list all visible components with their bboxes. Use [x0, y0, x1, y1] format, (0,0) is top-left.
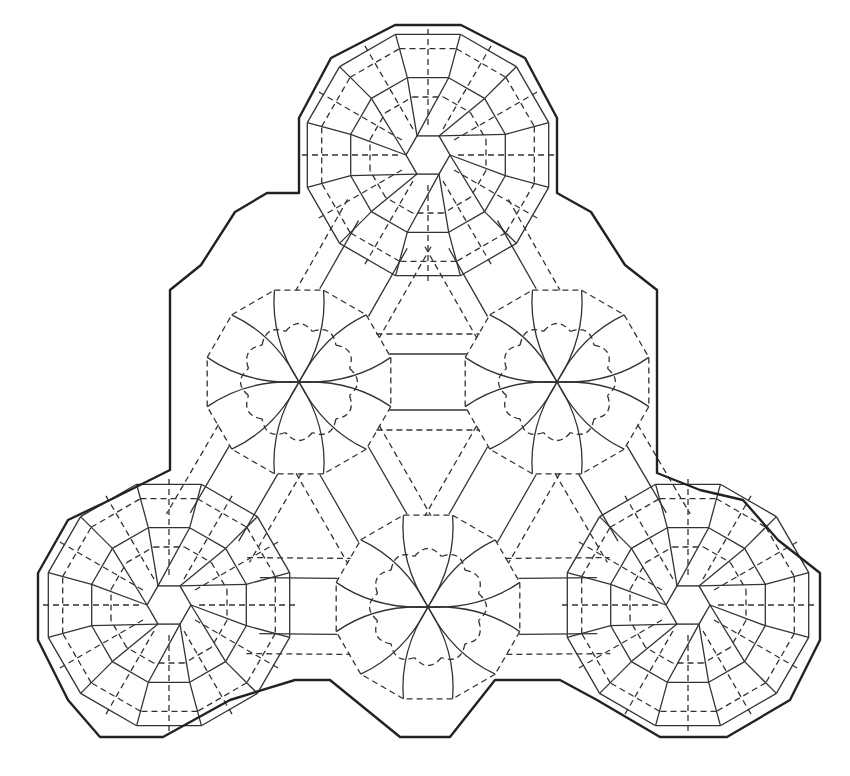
hexagon-edge — [666, 605, 677, 624]
valley-fold — [207, 407, 232, 450]
mountain-fold — [600, 517, 632, 549]
curved-valley-fold — [247, 396, 262, 419]
curved-mountain-fold — [532, 290, 557, 382]
valley-fold — [444, 97, 471, 113]
curved-mountain-fold — [557, 315, 624, 382]
valley-fold — [296, 473, 348, 563]
valley-fold — [610, 683, 659, 712]
valley-fold — [425, 247, 477, 338]
valley-fold — [247, 634, 275, 683]
mountain-fold — [485, 212, 517, 244]
mountain-fold — [371, 78, 407, 99]
mountain-fold — [449, 212, 485, 233]
curved-mountain-fold — [428, 540, 495, 607]
valley-fold — [506, 184, 535, 233]
curved-mountain-fold — [361, 607, 428, 674]
curved-mountain-fold — [465, 382, 557, 407]
curved-mountain-fold — [490, 315, 557, 382]
mountain-fold — [81, 517, 113, 549]
curved-mountain-fold — [403, 607, 428, 699]
valley-fold — [198, 499, 247, 528]
mountain-fold — [190, 528, 226, 549]
curved-mountain-fold — [532, 382, 557, 474]
crease-pattern-canvas — [0, 0, 850, 776]
valley-fold — [506, 654, 610, 655]
hexagon-edge — [439, 155, 450, 174]
mountain-fold — [320, 475, 359, 543]
mountain-fold — [226, 548, 247, 584]
mountain-fold — [48, 573, 91, 585]
mountain-fold — [485, 67, 517, 99]
mountain-fold — [369, 248, 408, 316]
curved-mountain-fold — [336, 607, 428, 632]
valley-fold — [63, 527, 91, 576]
curved-mountain-fold — [299, 382, 366, 449]
valley-fold — [425, 426, 477, 516]
valley-fold — [232, 290, 275, 315]
valley-fold — [582, 290, 625, 315]
curved-mountain-fold — [557, 382, 624, 449]
valley-fold — [624, 315, 649, 358]
valley-fold — [324, 290, 367, 315]
mountain-fold — [709, 682, 721, 725]
valley-fold — [361, 515, 404, 540]
curved-valley-fold — [608, 369, 616, 396]
mountain-fold — [631, 624, 677, 662]
valley-fold — [506, 77, 535, 126]
mountain-fold — [611, 624, 677, 626]
valley-fold — [350, 49, 399, 77]
curved-valley-fold — [415, 549, 442, 557]
mountain-fold — [765, 573, 808, 585]
mountain-fold — [631, 662, 667, 683]
curved-valley-fold — [376, 621, 391, 644]
curved-valley-fold — [544, 433, 571, 441]
hexagon-edge — [699, 605, 710, 624]
valley-fold — [766, 634, 795, 683]
valley-fold — [185, 647, 212, 663]
curved-valley-fold — [241, 369, 249, 396]
curved-mountain-fold — [299, 357, 391, 382]
mountain-fold — [246, 626, 289, 638]
paper-border — [38, 25, 820, 737]
curved-valley-fold — [376, 570, 391, 593]
curved-mountain-fold — [361, 540, 428, 607]
mountain-fold — [567, 626, 610, 638]
hexagon-edge — [439, 136, 450, 155]
valley-fold — [247, 558, 351, 559]
valley-fold — [457, 233, 506, 261]
valley-fold — [366, 407, 391, 450]
valley-fold — [506, 558, 610, 559]
valley-fold — [638, 425, 690, 514]
curved-mountain-fold — [207, 382, 299, 407]
valley-fold — [465, 407, 490, 450]
crease-pattern-diagram — [0, 0, 850, 776]
mountain-fold — [745, 626, 766, 662]
curved-valley-fold — [370, 594, 378, 621]
valley-fold — [582, 634, 611, 683]
curved-mountain-fold — [232, 382, 299, 449]
curved-valley-fold — [286, 324, 313, 332]
valley-fold — [63, 634, 91, 683]
mountain-fold — [745, 548, 766, 584]
mountain-fold — [340, 212, 372, 244]
curved-mountain-fold — [274, 382, 299, 474]
mountain-fold — [745, 662, 777, 694]
mountain-fold — [656, 484, 668, 527]
curved-mountain-fold — [299, 315, 366, 382]
valley-fold — [646, 547, 673, 563]
mountain-fold — [190, 484, 202, 527]
mountain-fold — [709, 528, 745, 549]
valley-fold — [91, 499, 140, 528]
mountain-fold — [699, 584, 765, 586]
mountain-fold — [709, 662, 745, 683]
curved-mountain-fold — [557, 357, 649, 382]
valley-fold — [490, 449, 533, 474]
mountain-fold — [611, 548, 632, 584]
valley-fold — [91, 683, 140, 712]
curved-valley-fold — [594, 345, 609, 368]
mountain-fold — [239, 474, 278, 541]
valley-fold — [582, 527, 611, 576]
mountain-fold — [579, 474, 618, 541]
hexagon-edge — [406, 155, 417, 174]
curved-valley-fold — [465, 621, 480, 644]
